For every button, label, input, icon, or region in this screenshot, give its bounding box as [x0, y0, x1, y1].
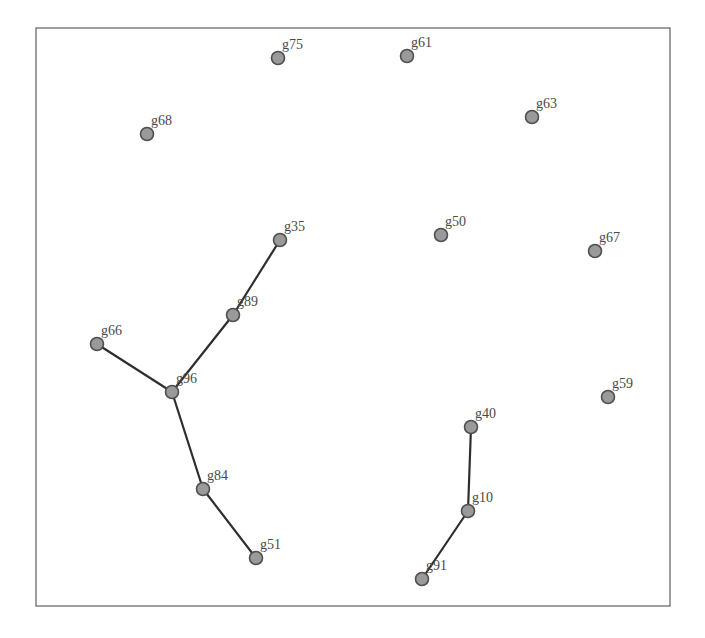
node-g91[interactable]: [416, 573, 429, 586]
node-g40[interactable]: [465, 421, 478, 434]
node-g96[interactable]: [166, 386, 179, 399]
node-label-g59: g59: [612, 376, 633, 391]
node-label-g91: g91: [426, 558, 447, 573]
edge-g66-g96: [97, 344, 172, 392]
edge-g84-g51: [203, 489, 256, 558]
node-label-g66: g66: [101, 323, 122, 338]
node-g50[interactable]: [435, 229, 448, 242]
node-g10[interactable]: [462, 505, 475, 518]
node-g67[interactable]: [589, 245, 602, 258]
node-label-g75: g75: [282, 37, 303, 52]
node-label-g67: g67: [599, 230, 620, 245]
node-g61[interactable]: [401, 50, 414, 63]
nodes-layer: [91, 50, 615, 586]
node-g59[interactable]: [602, 391, 615, 404]
edge-g96-g84: [172, 392, 203, 489]
node-label-g61: g61: [411, 35, 432, 50]
graph-canvas: g75g61g68g63g35g50g67g89g66g96g59g40g84g…: [0, 0, 705, 638]
node-label-g96: g96: [176, 371, 197, 386]
node-label-g50: g50: [445, 214, 466, 229]
node-label-g51: g51: [260, 537, 281, 552]
diagram-frame: [36, 28, 670, 606]
node-label-g40: g40: [475, 406, 496, 421]
node-label-g84: g84: [207, 468, 228, 483]
labels-layer: g75g61g68g63g35g50g67g89g66g96g59g40g84g…: [101, 35, 633, 573]
node-g35[interactable]: [274, 234, 287, 247]
node-g75[interactable]: [272, 52, 285, 65]
node-g66[interactable]: [91, 338, 104, 351]
node-label-g10: g10: [472, 490, 493, 505]
node-g68[interactable]: [141, 128, 154, 141]
edges-layer: [97, 240, 471, 579]
node-g89[interactable]: [227, 309, 240, 322]
node-label-g35: g35: [284, 219, 305, 234]
edge-g40-g10: [468, 427, 471, 511]
node-label-g63: g63: [536, 96, 557, 111]
node-label-g68: g68: [151, 113, 172, 128]
node-g84[interactable]: [197, 483, 210, 496]
node-g51[interactable]: [250, 552, 263, 565]
node-label-g89: g89: [237, 294, 258, 309]
node-g63[interactable]: [526, 111, 539, 124]
